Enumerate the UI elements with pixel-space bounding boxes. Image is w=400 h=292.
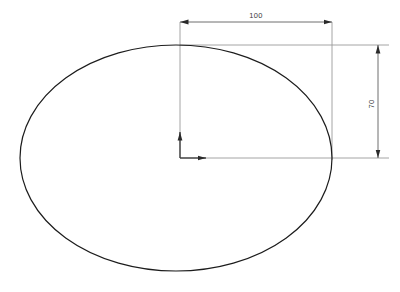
width-dimension-label: 100 [249,11,263,20]
height-dimension-group: 70 [367,45,378,158]
height-dimension-label: 70 [367,99,376,108]
extension-lines-group [180,22,389,160]
technical-drawing-canvas: 100 70 [0,0,400,292]
width-dimension-group: 100 [180,11,332,22]
origin-marker-group [180,132,206,158]
drawing-viewport: 100 70 [0,0,400,292]
